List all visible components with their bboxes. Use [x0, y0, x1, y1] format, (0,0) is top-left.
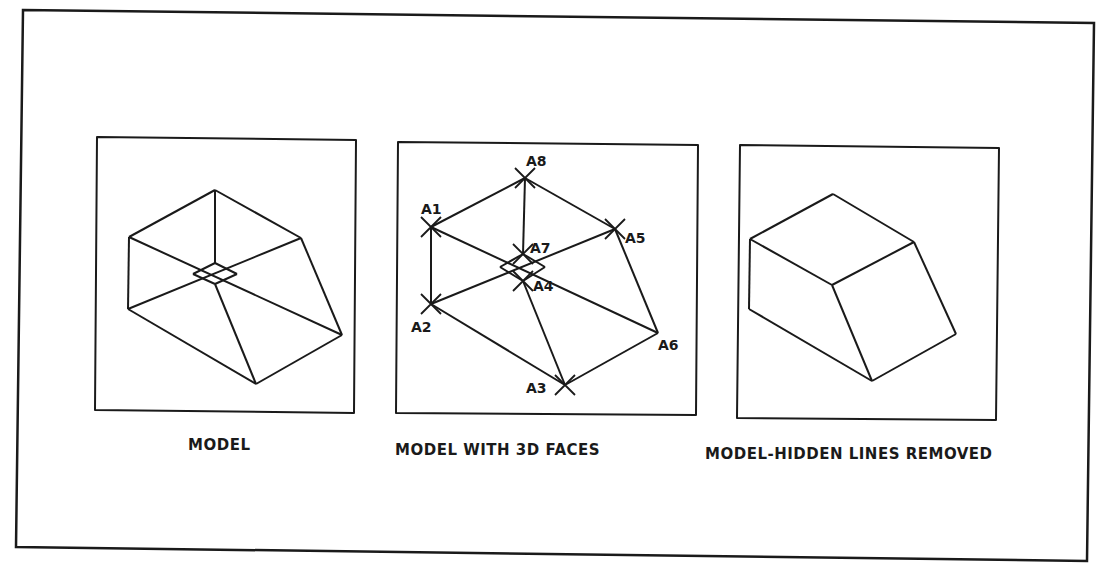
label-a3: A3 [526, 380, 547, 396]
label-a7: A7 [530, 240, 551, 256]
caption-model: MODEL [188, 436, 250, 454]
panel-model [95, 137, 356, 413]
label-a2: A2 [411, 319, 432, 335]
marker-a4 [513, 271, 533, 291]
marker-a5 [605, 219, 625, 239]
panel-model-3d-faces: A8 A1 A5 A7 A4 A2 A6 A3 [396, 142, 698, 415]
figure-svg: A8 A1 A5 A7 A4 A2 A6 A3 [0, 0, 1105, 568]
caption-model-hidden-lines-removed: MODEL-HIDDEN LINES REMOVED [705, 445, 993, 463]
wireframe-model [128, 190, 342, 384]
panel-hidden-lines-removed [737, 145, 999, 420]
label-a1: A1 [421, 201, 442, 217]
caption-model-3d-faces: MODEL WITH 3D FACES [395, 441, 600, 459]
label-a5: A5 [625, 230, 646, 246]
figure-canvas: A8 A1 A5 A7 A4 A2 A6 A3 [0, 0, 1105, 568]
label-a6: A6 [658, 337, 679, 353]
label-a8: A8 [526, 153, 547, 169]
solid-model [749, 194, 956, 381]
vertex-markers [421, 168, 625, 395]
marker-a3 [555, 375, 575, 395]
label-a4: A4 [533, 278, 554, 294]
